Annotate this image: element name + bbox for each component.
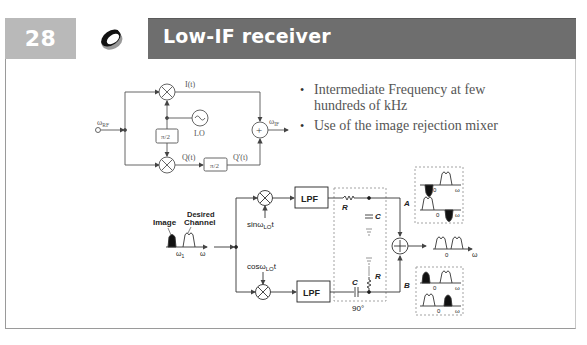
box-a-zero-2: 0 xyxy=(436,212,440,218)
phase-90-label: 90° xyxy=(352,304,364,313)
r-top-label: R xyxy=(342,203,348,212)
box-a-omega-2: ω xyxy=(455,212,460,218)
output-omega-label: ω xyxy=(472,251,478,258)
q-prime-label: Q'(t) xyxy=(233,153,248,162)
desired-label-2: Channel xyxy=(184,218,216,227)
phase-shift-label-1: π/2 xyxy=(161,133,170,141)
output-zero-label: 0 xyxy=(445,252,449,258)
box-a-zero-1: 0 xyxy=(433,187,437,193)
image-spectrum-icon xyxy=(168,235,176,248)
phase-shift-label-2: π/2 xyxy=(210,162,219,170)
input-port-icon xyxy=(96,128,101,133)
resistor-bottom-icon xyxy=(367,277,371,292)
q-label: Q(t) xyxy=(182,153,196,162)
bottom-mixer-icon xyxy=(159,157,175,173)
branch-a-label: A xyxy=(403,199,410,208)
output-label: ωIF xyxy=(269,117,279,127)
summer-plus: + xyxy=(256,124,262,136)
output-spectrum-left-icon xyxy=(435,237,447,249)
cos-mixer-icon xyxy=(256,285,271,300)
sin-lo-label: sinωLOt xyxy=(247,220,275,230)
image-label: Image xyxy=(153,218,177,227)
lo-label: LO xyxy=(194,129,205,138)
c-bottom-label: C xyxy=(352,278,358,287)
output-spectrum-right-icon xyxy=(451,237,463,249)
lpf-bottom-label: LPF xyxy=(303,288,321,298)
box-b-omega-2: ω xyxy=(455,308,460,314)
r-bottom-label: R xyxy=(375,272,381,281)
resistor-top-icon xyxy=(343,196,354,200)
input-label: ωRF xyxy=(97,118,109,128)
omega1-label: ω1 xyxy=(176,250,184,259)
i-label: I(t) xyxy=(185,80,196,89)
diagrams: ωRF ωIF I(t) Q(t) Q'(t) π/2 π/2 LO + xyxy=(0,0,587,345)
box-b-omega-1: ω xyxy=(455,285,460,291)
box-b-zero-2: 0 xyxy=(437,308,441,314)
top-mixer-icon xyxy=(159,84,175,100)
box-b-zero-1: 0 xyxy=(433,285,437,291)
box-a-omega-1: ω xyxy=(455,187,460,193)
sin-mixer-icon xyxy=(258,191,273,206)
branch-b-label: B xyxy=(404,281,410,290)
lpf-top-label: LPF xyxy=(301,194,319,204)
cos-lo-label: cosωLOt xyxy=(247,262,277,272)
desired-spectrum-icon xyxy=(183,233,195,247)
c-top-label: C xyxy=(375,212,381,221)
omega-axis-label: ω xyxy=(200,250,206,257)
